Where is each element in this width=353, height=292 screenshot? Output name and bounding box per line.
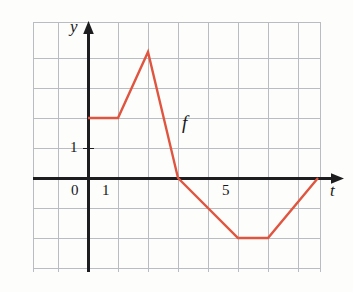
y-tick-label-1: 1 [70,140,78,155]
graph-figure: y t f 1 0 1 5 [0,0,353,292]
x-tick-label-1: 1 [102,183,110,198]
figure-background [0,0,353,292]
y-axis-label: y [70,18,78,35]
x-tick-label-0: 0 [71,183,79,198]
t-axis-label: t [330,182,335,199]
function-plot [0,0,353,292]
x-tick-label-5: 5 [222,183,230,198]
function-label-f: f [182,113,187,132]
